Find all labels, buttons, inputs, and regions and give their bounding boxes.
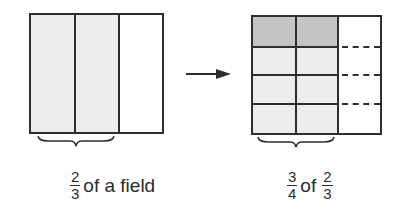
right-divider-row-3 (253, 103, 339, 105)
fraction-two-thirds-right: 2 3 (322, 170, 332, 201)
left-label: 2 3 of a field (70, 170, 155, 201)
fraction-two-thirds: 2 3 (70, 170, 80, 201)
left-shaded-column-2 (76, 15, 120, 132)
left-field-rectangle (29, 13, 164, 134)
left-shaded-column-1 (31, 15, 75, 132)
right-dashed-row-1 (342, 46, 380, 48)
arrow-right-icon (184, 67, 234, 81)
right-dashed-row-2 (342, 74, 380, 76)
right-divider-row-1 (253, 46, 339, 48)
right-highlighted-cell-1 (253, 17, 296, 47)
left-divider-2 (118, 15, 120, 132)
fraction-three-quarters: 3 4 (287, 170, 297, 201)
right-label: 3 4 of 2 3 (287, 170, 336, 201)
right-dashed-row-3 (342, 103, 380, 105)
left-brace-icon (36, 134, 116, 148)
right-field-rectangle (251, 15, 382, 135)
left-divider-1 (74, 15, 76, 132)
right-brace-icon (256, 135, 336, 149)
right-label-text: of (300, 175, 316, 197)
right-highlighted-cell-2 (296, 17, 339, 47)
left-label-text: of a field (83, 175, 155, 197)
right-divider-row-2 (253, 74, 339, 76)
